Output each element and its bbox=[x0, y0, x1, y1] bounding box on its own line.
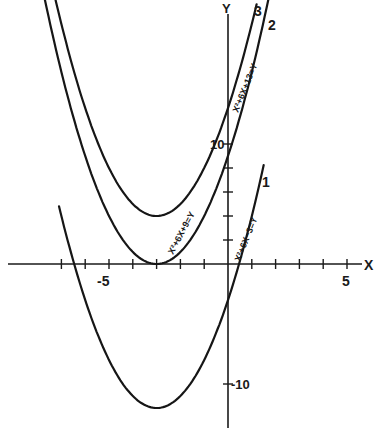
curve-1-number: 1 bbox=[262, 174, 270, 190]
x-tick-label-neg5: -5 bbox=[97, 273, 110, 289]
curve-2-equation: X²+6X+9=Y bbox=[166, 210, 197, 256]
x-axis-label: X bbox=[364, 257, 374, 273]
x-tick-label-5: 5 bbox=[342, 273, 350, 289]
curve-1-parabola bbox=[59, 165, 264, 408]
y-axis-label: Y bbox=[222, 1, 231, 16]
curve-3-number: 3 bbox=[254, 3, 262, 19]
curve-3-parabola bbox=[54, 0, 256, 216]
parabola-chart: X Y -5 5 10 -10 1 2 3 X²+6X−3=Y X²+6X+9=… bbox=[0, 0, 380, 436]
y-tick-label-neg10: -10 bbox=[231, 377, 250, 392]
curve-2-number: 2 bbox=[268, 17, 276, 33]
curve-2-parabola bbox=[45, 0, 269, 264]
curve-1-equation: X²+6X−3=Y bbox=[233, 216, 260, 263]
